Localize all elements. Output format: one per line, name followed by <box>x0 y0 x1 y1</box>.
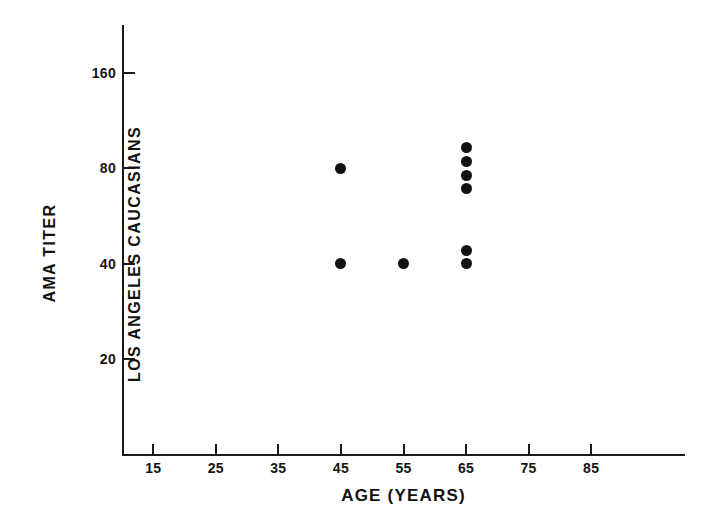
data-point <box>461 170 472 181</box>
scatter-plot-figure: 204080160 1525354555657585 AMA TITER LOS… <box>0 0 720 528</box>
x-axis-title: AGE (YEARS) <box>122 486 685 506</box>
y-tick-label-wrap: 40 <box>66 257 116 271</box>
x-tick-label: 65 <box>446 461 486 475</box>
y-tick-label-wrap: 160 <box>66 66 116 80</box>
x-tick-label: 45 <box>321 461 361 475</box>
data-point <box>335 258 346 269</box>
data-point <box>461 258 472 269</box>
x-tick-label: 85 <box>571 461 611 475</box>
data-point <box>461 142 472 153</box>
data-point <box>461 156 472 167</box>
data-point <box>335 163 346 174</box>
y-tick-label: 40 <box>70 257 116 271</box>
x-tick-label: 75 <box>509 461 549 475</box>
y-tick-label: 20 <box>70 352 116 366</box>
plot-area <box>124 25 685 454</box>
y-tick-label: 160 <box>70 66 116 80</box>
y-tick-label: 80 <box>70 161 116 175</box>
x-tick-label: 55 <box>384 461 424 475</box>
y-axis-title-secondary: LOS ANGELES CAUCASIANS <box>124 44 146 464</box>
x-tick-label: 35 <box>258 461 298 475</box>
y-tick-label-wrap: 80 <box>66 161 116 175</box>
data-point <box>398 258 409 269</box>
data-point <box>461 183 472 194</box>
data-point <box>461 245 472 256</box>
y-axis-title-primary: AMA TITER <box>40 143 60 363</box>
y-tick-label-wrap: 20 <box>66 352 116 366</box>
x-tick-label: 25 <box>196 461 236 475</box>
